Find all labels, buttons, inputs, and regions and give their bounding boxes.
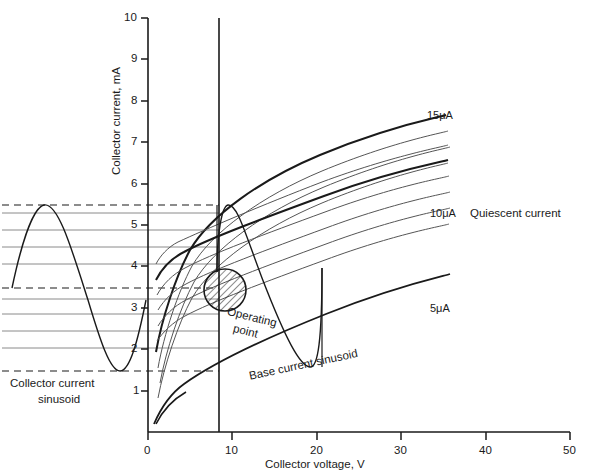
x-tick-50: 50 — [563, 444, 576, 456]
curve-label-15ua: 15μA — [427, 109, 453, 121]
y-tick-1: 1 — [133, 384, 139, 396]
y-tick-2: 2 — [131, 342, 137, 354]
curve-ib-14 — [158, 131, 448, 368]
x-tick-30: 30 — [394, 444, 407, 456]
y-axis-title: Collector current, mA — [110, 67, 122, 175]
transistor-characteristic-chart — [0, 0, 591, 476]
x-tick-10: 10 — [225, 444, 238, 456]
y-tick-8: 8 — [131, 94, 137, 106]
curve-label-5ua: 5μA — [430, 302, 450, 314]
y-tick-10: 10 — [124, 11, 137, 23]
quiescent-current-label: Quiescent current — [470, 207, 561, 219]
x-tick-40: 40 — [479, 444, 492, 456]
characteristic-curves — [154, 115, 450, 424]
x-tick-0: 0 — [144, 444, 150, 456]
y-tick-9: 9 — [131, 52, 137, 64]
curve-ib-15 — [156, 115, 446, 352]
y-tick-6: 6 — [131, 177, 137, 189]
operating-point-marker[interactable] — [204, 269, 246, 311]
curve-label-10ua: 10μA — [430, 207, 456, 219]
collector-sinusoid-label-line1: Collector current — [10, 377, 94, 389]
x-axis-title: Collector voltage, V — [265, 458, 365, 470]
y-tick-7: 7 — [131, 135, 137, 147]
y-tick-5: 5 — [131, 218, 137, 230]
curve-ib-5 — [154, 274, 450, 424]
y-tick-4: 4 — [131, 259, 137, 271]
projection-lines — [2, 213, 219, 348]
y-tick-3: 3 — [131, 301, 137, 313]
x-tick-20: 20 — [310, 444, 323, 456]
collector-sinusoid-label-line2: sinusoid — [38, 393, 80, 405]
x-axis-ticks — [148, 432, 570, 440]
